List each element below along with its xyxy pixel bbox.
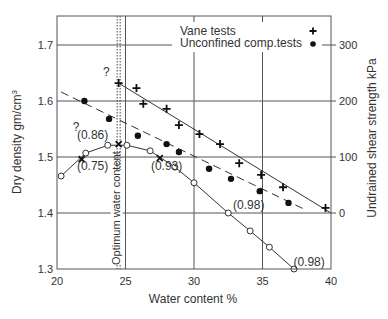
annotation-label: (0.93) [151,159,182,173]
unconfined-dot-marker [285,200,291,206]
unconfined-dot-marker [176,149,182,155]
chart-svg: Optimum water content 1.31.41.51.61.7202… [0,0,388,319]
legend: Vane testsUnconfined comp.tests [172,22,322,52]
annotation-label: ? [103,65,110,79]
unconfined-dot-marker [163,141,169,147]
compaction-open-marker [58,173,64,179]
vane-plus-marker [235,159,243,167]
vane-plus-marker [322,204,330,212]
y-tick-label: 1.5 [38,151,53,163]
unconfined-dot-marker [135,133,141,139]
y-axis-label: Dry density gm/cm3 [10,90,25,194]
y-tick-label: 1.3 [38,263,53,275]
compaction-open-marker [124,142,130,148]
y-tick-label: 1.6 [38,95,53,107]
unconfined-dot-marker [106,116,112,122]
unconfined-dot-marker [206,166,212,172]
vane-plus-marker [163,105,171,113]
vane-plus-marker [115,79,123,87]
y2-tick-label: 0 [339,207,345,219]
compaction-open-marker [191,180,197,186]
x-tick-label: 20 [51,275,63,287]
y2-tick-label: 100 [339,151,357,163]
y-axis-label-sup: 3 [10,90,19,95]
y2-axis-label: Undrained shear strength kPa [365,58,379,218]
y-axis-label-base: Dry density gm/cm [10,95,24,194]
y-tick-label: 1.4 [38,207,53,219]
y2-tick-label: 200 [339,95,357,107]
chart-figure: Optimum water content 1.31.41.51.61.7202… [0,0,388,319]
unconfined-dot-marker [228,176,234,182]
legend-dot-marker [310,41,316,47]
annotation-label: (0.98) [293,255,324,269]
unconfined-dot-marker [257,188,263,194]
compaction-open-marker [147,148,153,154]
y2-tick-label: 300 [339,39,357,51]
y-tick-label: 1.7 [38,39,53,51]
x-tick-label: 35 [256,275,268,287]
annotation-label: (0.86) [77,128,108,142]
compaction-open-marker [266,244,272,250]
annotation-label: (0.75) [77,159,108,173]
series-layer: Optimum water content [58,16,331,272]
annotation-label: (0.98) [233,198,264,212]
unconfined-fit-line [61,92,306,210]
optimum-label: Optimum water content [110,151,122,265]
vane-plus-marker [175,121,183,129]
saturation-x-marker [116,141,122,147]
x-axis-label: Water content % [149,292,238,306]
unconfined-dot-marker [81,98,87,104]
compaction-open-marker [225,210,231,216]
compaction-open-marker [105,142,111,148]
compaction-open-marker [247,228,253,234]
vane-plus-marker [132,84,140,92]
grid-lines [57,16,331,269]
compaction-open-marker [83,150,89,156]
x-tick-label: 25 [119,275,131,287]
x-tick-label: 40 [325,275,337,287]
vane-plus-marker [279,183,287,191]
legend-label: Unconfined comp.tests [180,36,302,50]
x-tick-label: 30 [188,275,200,287]
